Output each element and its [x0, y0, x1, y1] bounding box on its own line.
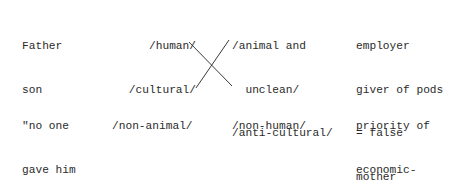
subject-term-top-line-1: Father: [22, 39, 62, 54]
gloss-top-line-1: employer: [356, 39, 443, 54]
semiotic-term-animal-and: /animal and: [232, 39, 333, 54]
gloss-bottom-line-2: economic-: [356, 163, 430, 178]
gloss-bottom-line-1: priority of: [356, 119, 430, 134]
semiotic-term-non-human-label: /non-human/: [232, 119, 306, 134]
semiotic-square-diagram: Father son "no one gave him anything" (a…: [0, 0, 466, 181]
semiotic-term-human: /human/: [112, 39, 196, 54]
subject-term-bottom-line-1: "no one: [22, 119, 96, 134]
semiotic-term-non-human: /non-human/: [232, 90, 306, 163]
semiotic-term-non-animal-label: /non-animal/: [112, 119, 232, 134]
subject-term-bottom: "no one gave him anything" (absence of t…: [22, 90, 96, 181]
subject-term-bottom-line-2: gave him: [22, 163, 96, 178]
semiotic-term-non-animal: /non-animal/: [112, 90, 232, 163]
diagonal-anti-cultural-to-non-animal: [196, 40, 229, 88]
gloss-bottom: priority of economic- biological goods: [356, 90, 430, 181]
